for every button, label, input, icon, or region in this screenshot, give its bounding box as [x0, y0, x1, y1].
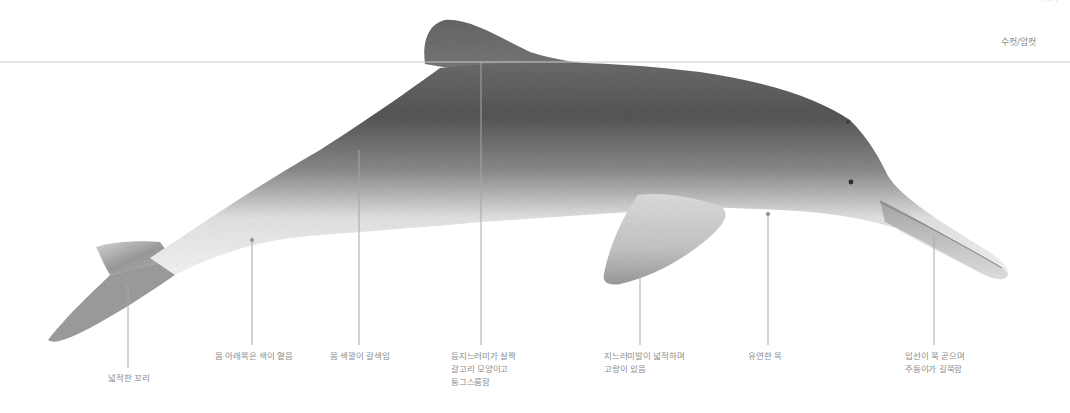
label-tail-line-1: 넓적한 꼬리	[108, 372, 150, 385]
label-neck-line-1: 유연한 목	[748, 350, 782, 363]
label-dorsal-fin: 등지느러미가 살짝 갈고리 모양이고 둥그스름함	[451, 350, 516, 389]
label-neck: 유연한 목	[748, 350, 782, 363]
label-body-color-line-1: 몸 색깔이 갈색임	[330, 350, 390, 363]
dolphin-diagram: ᄆᄀᄉᄋᄌ ᄋᄋᄋᄋ 수컷/암컷 넓적한 꼬리 몸 아래쪽은 색이 옅음 몸 색…	[0, 0, 1070, 413]
label-flipper-line-2: 고랑이 있음	[604, 363, 685, 376]
corner-text-bold: ᄋᄋᄋ	[1039, 0, 1060, 5]
label-belly: 몸 아래쪽은 색이 옅음	[215, 350, 293, 363]
label-belly-line-1: 몸 아래쪽은 색이 옅음	[215, 350, 293, 363]
label-dorsal-fin-line-3: 둥그스름함	[451, 376, 516, 389]
label-tail: 넓적한 꼬리	[108, 372, 150, 385]
corner-text-regular: ᄆᄀᄉᄋᄌ ᄋ	[993, 0, 1031, 5]
eye	[849, 180, 854, 185]
header-corner-text: ᄆᄀᄉᄋᄌ ᄋᄋᄋᄋ	[993, 0, 1060, 5]
label-body-color: 몸 색깔이 갈색임	[330, 350, 390, 363]
blowhole	[846, 120, 850, 124]
label-beak-line-1: 입선이 쭉 곧으며	[905, 350, 965, 363]
label-flipper: 지느러미발이 넓적하며 고랑이 있음	[604, 350, 685, 376]
dolphin-body	[150, 62, 1008, 278]
label-dorsal-fin-line-2: 갈고리 모양이고	[451, 363, 516, 376]
label-beak-line-2: 주둥이가 길쭉함	[905, 363, 965, 376]
sex-label: 수컷/암컷	[1001, 35, 1036, 48]
label-flipper-line-1: 지느러미발이 넓적하며	[604, 350, 685, 363]
label-dorsal-fin-line-1: 등지느러미가 살짝	[451, 350, 516, 363]
label-beak: 입선이 쭉 곧으며 주둥이가 길쭉함	[905, 350, 965, 376]
